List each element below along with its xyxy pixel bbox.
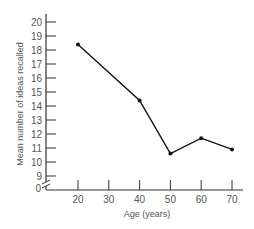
line-chart: 910111213141516171819200 203040506070 Ag…: [0, 0, 254, 229]
x-tick-label: 50: [165, 194, 177, 205]
y-tick-label: 20: [31, 17, 43, 28]
y-axis-title: Mean number of ideas recalled: [15, 42, 25, 166]
data-point: [168, 152, 172, 156]
y-tick-label: 12: [31, 129, 43, 140]
data-point: [138, 98, 142, 102]
x-axis: 203040506070: [46, 180, 243, 205]
y-tick-label: 19: [31, 31, 43, 42]
y-tick-label: 17: [31, 59, 43, 70]
series-layer: [76, 42, 234, 155]
y-tick-label: 14: [31, 101, 43, 112]
data-point: [230, 147, 234, 151]
series-line: [78, 44, 232, 153]
y-tick-label: 13: [31, 115, 43, 126]
x-axis-title: Age (years): [124, 209, 171, 219]
y-tick-label: 11: [32, 143, 43, 154]
x-tick-label: 70: [226, 194, 238, 205]
y-tick-label: 15: [31, 87, 43, 98]
x-tick-label: 20: [72, 194, 84, 205]
x-tick-label: 60: [196, 194, 208, 205]
y-tick-label-zero: 0: [35, 183, 41, 194]
y-tick-label: 18: [31, 45, 43, 56]
y-tick-label: 16: [31, 73, 43, 84]
y-tick-label: 9: [36, 171, 42, 182]
y-axis: 910111213141516171819200: [31, 14, 56, 194]
x-tick-label: 40: [134, 194, 146, 205]
data-point: [199, 136, 203, 140]
y-tick-label: 10: [31, 157, 43, 168]
x-tick-label: 30: [103, 194, 115, 205]
data-point: [76, 42, 80, 46]
